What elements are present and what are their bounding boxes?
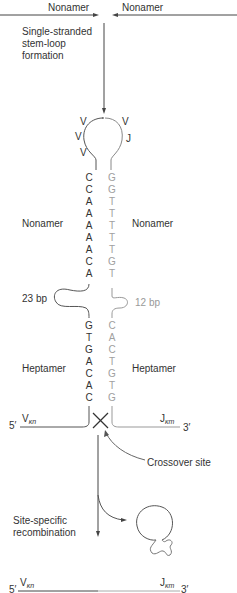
left-base: A: [84, 356, 94, 368]
spacer-23bp-loop: [54, 284, 89, 318]
arrowhead-right-icon: [93, 13, 99, 17]
right-base: G: [107, 184, 117, 196]
right-base: T: [107, 196, 117, 208]
loop-label-j: J: [126, 133, 131, 144]
right-base: T: [107, 356, 117, 368]
right-base: A: [107, 332, 117, 344]
left-nonamer-label: Nonamer: [22, 218, 63, 229]
final-j-gene-label: Jκm: [160, 577, 174, 591]
left-base: C: [84, 392, 94, 404]
left-base: A: [84, 208, 94, 220]
right-base: T: [107, 244, 117, 256]
left-base: A: [84, 220, 94, 232]
arrowhead-down-icon: [102, 108, 106, 114]
left-base: A: [84, 244, 94, 256]
right-base: G: [107, 172, 117, 184]
arrowhead-down-icon: [96, 531, 100, 537]
arrowhead-left-icon: [112, 13, 118, 17]
stem-loop-label-3: formation: [22, 50, 64, 61]
left-base: G: [84, 320, 94, 332]
right-base: T: [107, 268, 117, 280]
j-gene-label: Jκm: [160, 413, 174, 427]
excised-circle-knot: [150, 540, 172, 556]
spacer-23bp-label: 23 bp: [22, 293, 47, 304]
arrowhead-right-icon: [121, 518, 127, 522]
left-base: C: [84, 172, 94, 184]
right-base: T: [107, 208, 117, 220]
loop-label-v: V: [80, 147, 87, 158]
loop-right-arc: [105, 118, 122, 170]
final-five-prime-label: 5′: [9, 584, 16, 593]
five-prime-label: 5′: [9, 420, 16, 431]
loop-label-v: V: [80, 116, 87, 127]
right-base: G: [107, 392, 117, 404]
stem-loop-label-1: Single-stranded: [22, 26, 92, 37]
left-base: A: [84, 232, 94, 244]
left-base: C: [84, 184, 94, 196]
left-heptamer-label: Heptamer: [22, 363, 66, 374]
right-base: T: [107, 380, 117, 392]
left-base: A: [84, 380, 94, 392]
left-base: A: [84, 268, 94, 280]
right-base: T: [107, 220, 117, 232]
left-base: C: [84, 256, 94, 268]
final-v-gene-label: Vκn: [20, 577, 34, 591]
left-base: A: [84, 196, 94, 208]
right-nonamer-label: Nonamer: [132, 218, 173, 229]
loop-label-v: V: [122, 116, 129, 127]
right-heptamer-label: Heptamer: [132, 363, 176, 374]
recombination-label-1: Site-specific: [13, 515, 67, 526]
right-base: C: [107, 320, 117, 332]
three-prime-label: 3′: [183, 422, 190, 433]
excised-circle: [137, 506, 173, 540]
crossover-pointer: [106, 433, 145, 460]
spacer-12bp-loop: [112, 288, 127, 318]
right-base: T: [107, 232, 117, 244]
loop-label-v: V: [75, 131, 82, 142]
left-base: G: [84, 344, 94, 356]
crossover-site-label: Crossover site: [147, 457, 211, 468]
arrowhead-icon: [104, 430, 109, 437]
right-base: C: [107, 344, 117, 356]
top-right-nonamer-label: Nonamer: [122, 2, 163, 13]
stem-loop-label-2: stem-loop: [22, 38, 66, 49]
right-base: G: [107, 368, 117, 380]
v-gene-label: Vκn: [22, 413, 36, 427]
left-base: T: [84, 332, 94, 344]
left-base: C: [84, 368, 94, 380]
recombination-label-2: recombination: [13, 527, 76, 538]
final-three-prime-label: 3′: [181, 584, 188, 593]
top-left-nonamer-label: Nonamer: [48, 2, 89, 13]
right-base: G: [107, 256, 117, 268]
excision-arrow: [98, 495, 123, 520]
spacer-12bp-label: 12 bp: [135, 297, 160, 308]
